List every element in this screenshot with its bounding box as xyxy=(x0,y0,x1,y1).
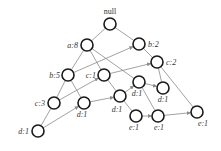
tree-node-a8 xyxy=(81,39,93,51)
edge-a8-b5 xyxy=(71,50,83,69)
tree-node-c2 xyxy=(151,56,163,68)
edge-d1a-e1b xyxy=(142,87,155,110)
edge-b5-c3 xyxy=(57,80,65,97)
edge-d1c-d1d xyxy=(90,97,114,102)
node-label-b5: b:5 xyxy=(49,71,60,80)
node-label-e1a: e:1 xyxy=(129,123,139,132)
tree-node-e1c xyxy=(191,106,203,118)
tree-node-d1d xyxy=(114,90,126,102)
node-label-e1c: e:1 xyxy=(198,119,208,128)
node-label-d1d: d:1 xyxy=(112,105,123,114)
edge-root-b2 xyxy=(115,27,134,40)
tree-node-e1a xyxy=(130,110,142,122)
tree-node-d1e xyxy=(32,125,44,137)
node-label-d1a: d:1 xyxy=(132,89,143,98)
edge-e1b-e1c xyxy=(164,113,191,116)
node-label-d1e: d:1 xyxy=(18,127,29,136)
tree-node-d1a xyxy=(133,76,145,88)
fp-tree-diagram: nulla:8b:2c:2b:5c:1d:1d:1c:3d:1d:1e:1e:1… xyxy=(0,0,221,151)
node-label-a8: a:8 xyxy=(67,41,78,50)
edge-c3-d1e xyxy=(41,108,51,125)
edge-d1e-d1c xyxy=(43,106,78,128)
edge-c2-d1b xyxy=(158,68,161,82)
edge-d1d-e1a xyxy=(124,101,132,111)
tree-node-e1b xyxy=(152,110,164,122)
tree-node-c3 xyxy=(48,97,60,109)
tree-node-d1c xyxy=(78,97,90,109)
edge-b2-c2 xyxy=(143,48,152,57)
tree-node-root xyxy=(104,18,116,30)
node-label-e1b: e:1 xyxy=(154,123,164,132)
tree-node-b5 xyxy=(62,69,74,81)
node-label-root: null xyxy=(104,7,117,16)
node-label-d1b: d:1 xyxy=(158,95,169,104)
edge-c1-c2 xyxy=(110,64,151,74)
tree-node-d1b xyxy=(157,82,169,94)
edge-d1a-d1b xyxy=(145,83,157,86)
edge-a8-c1 xyxy=(90,50,101,69)
node-label-d1c: d:1 xyxy=(77,110,88,119)
edge-c1-d1d xyxy=(108,80,116,91)
node-label-c2: c:2 xyxy=(166,58,176,67)
tree-node-b2 xyxy=(133,38,145,50)
node-label-c1: c:1 xyxy=(86,71,96,80)
tree-node-c1 xyxy=(98,69,110,81)
node-label-b2: b:2 xyxy=(148,40,159,49)
edge-root-a8 xyxy=(92,28,106,41)
node-label-c3: c:3 xyxy=(35,99,45,108)
